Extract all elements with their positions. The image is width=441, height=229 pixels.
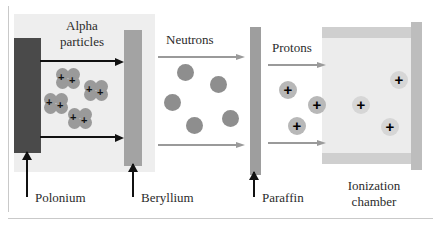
arrow-shaft xyxy=(40,60,116,62)
ionization-chamber-right-wall xyxy=(411,22,422,170)
neutron-particle xyxy=(210,76,227,93)
alpha-particles-label-line2: particles xyxy=(45,34,119,49)
proton-particle: + xyxy=(279,81,297,99)
charge-symbol: + xyxy=(46,97,52,108)
neutron-particle xyxy=(177,64,194,81)
arrow-shaft xyxy=(40,136,116,138)
neutrons-label: Neutrons xyxy=(166,32,214,47)
neutron-beam-top-arrow xyxy=(158,54,245,61)
ionization-chamber-bottom-wall xyxy=(322,153,411,164)
ionization-chamber-top-wall xyxy=(322,27,411,38)
callout-tip xyxy=(22,151,32,160)
charge-symbol: + xyxy=(86,84,92,95)
paraffin-label: Paraffin xyxy=(262,190,304,205)
alpha-beam-bottom-arrow xyxy=(40,134,124,141)
proton-particle: + xyxy=(288,117,306,135)
proton-particle: + xyxy=(308,96,326,114)
charge-symbol: + xyxy=(70,112,76,123)
protons-label: Protons xyxy=(272,40,312,55)
neutron-discovery-diagram: + + + + + + + + xyxy=(0,0,441,229)
neutron-particle xyxy=(186,117,203,134)
alpha-beam-top-arrow xyxy=(40,58,124,65)
alpha-particle: + + xyxy=(56,68,82,90)
arrow-shaft xyxy=(268,142,318,144)
beryllium-label: Beryllium xyxy=(141,190,194,205)
proton-particle: + xyxy=(390,71,408,89)
charge-symbol: + xyxy=(81,115,87,126)
arrow-head xyxy=(115,134,124,142)
arrow-shaft xyxy=(158,56,237,58)
arrow-shaft xyxy=(268,64,318,66)
ionization-chamber-label-line1: Ionization xyxy=(336,178,412,193)
alpha-particle: + + xyxy=(84,80,110,102)
arrow-head xyxy=(115,58,124,66)
callout-tip xyxy=(249,171,259,180)
alpha-particle: + + xyxy=(44,93,70,115)
proton-beam-top-arrow xyxy=(268,62,326,69)
charge-symbol: + xyxy=(57,100,63,111)
callout-tip xyxy=(128,163,138,172)
arrow-head xyxy=(317,62,326,68)
arrow-head xyxy=(317,140,326,146)
alpha-particle: + + xyxy=(68,108,94,130)
proton-particle: + xyxy=(352,96,370,114)
proton-beam-bottom-arrow xyxy=(268,140,326,147)
arrow-shaft xyxy=(158,144,237,146)
alpha-particles-label-line1: Alpha xyxy=(52,18,112,33)
arrow-head xyxy=(236,142,245,148)
ionization-chamber-label-line2: chamber xyxy=(336,194,412,209)
charge-symbol: + xyxy=(58,72,64,83)
neutron-particle xyxy=(222,110,239,127)
polonium-label: Polonium xyxy=(35,190,86,205)
frame-left-rule xyxy=(8,6,9,212)
frame-bottom-rule xyxy=(8,218,433,219)
charge-symbol: + xyxy=(97,87,103,98)
beryllium-target-bar xyxy=(124,30,142,166)
neutron-beam-bottom-arrow xyxy=(158,142,245,149)
paraffin-block-bar xyxy=(250,27,261,175)
neutron-particle xyxy=(164,94,181,111)
arrow-head xyxy=(236,54,245,60)
charge-symbol: + xyxy=(69,75,75,86)
polonium-source-bar xyxy=(14,38,41,153)
proton-particle: + xyxy=(381,118,399,136)
